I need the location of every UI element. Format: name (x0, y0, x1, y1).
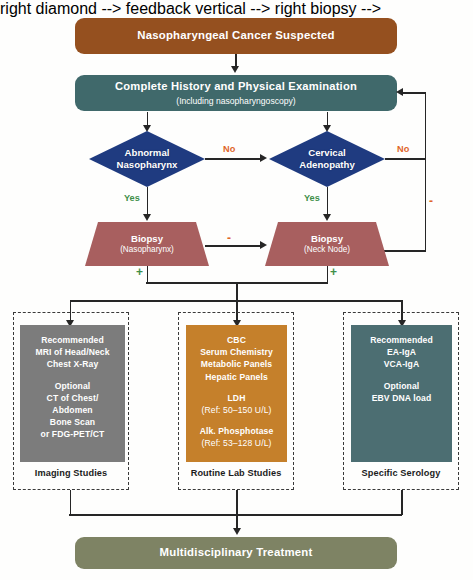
process-biopsy-nasopharynx[interactable]: Biopsy (Nasopharynx) (85, 222, 209, 266)
panel-line: Abdomen (52, 404, 92, 416)
panel-line: Optional (55, 380, 91, 392)
process-sublabel: (Neck Node) (304, 245, 350, 255)
decision-label-line1: Abnormal (125, 147, 170, 159)
connector-feedback-vertical (425, 93, 427, 251)
panel-line: MRI of Head/Neck (35, 346, 109, 358)
connector-minus-left-to-right-biopsy (205, 245, 261, 247)
arrowhead-down-to-treatment (233, 528, 241, 535)
process-label: Biopsy (131, 233, 163, 245)
edge-label-yes-right: Yes (304, 193, 320, 203)
flowchart-canvas: Nasopharyngeal Cancer Suspected Complete… (0, 0, 473, 580)
panel-line: EBV DNA load (372, 392, 432, 404)
panel-line: VCA-IgA (384, 358, 420, 370)
decision-cervical-adenopathy[interactable]: Cervical Adenopathy (269, 131, 385, 187)
panel-line: Metabolic Panels (201, 358, 272, 370)
connector-no-left-to-right-diamond (205, 158, 261, 160)
decision-label-line2: Adenopathy (299, 159, 354, 171)
panel-imaging-studies[interactable]: RecommendedMRI of Head/NeckChest X-RayOp… (20, 325, 125, 462)
connector-yes-right-diamond-to-biopsy (327, 187, 329, 215)
node-label: Complete History and Physical Examinatio… (115, 80, 357, 93)
connector-imaging-group-down (70, 490, 72, 515)
arrowhead-down-to-history (231, 66, 239, 73)
process-biopsy-neck-node[interactable]: Biopsy (Neck Node) (265, 222, 389, 266)
panel-specific-serology[interactable]: RecommendedEA-IgAVCA-IgAOptionalEBV DNA … (351, 325, 452, 462)
arrowhead-down-to-biopsy-nasopharynx (143, 214, 151, 221)
connector-plus-right-stub (327, 266, 329, 283)
arrowhead-left-into-history (396, 88, 403, 96)
panel-line: LDH (228, 392, 246, 404)
panel-routine-lab-studies[interactable]: CBCSerum ChemistryMetabolic PanelsHepati… (186, 325, 287, 462)
panel-line: Recommended (41, 334, 104, 346)
panel-line: Optional (384, 380, 420, 392)
connector-feedback-to-history (403, 92, 426, 94)
connector-serology-group-down (401, 490, 403, 515)
process-label: Biopsy (311, 233, 343, 245)
connector-adenopathy-no-to-feedback (385, 158, 426, 160)
process-sublabel: (Nasopharynx) (120, 245, 174, 255)
connector-merge-to-distribution (236, 282, 238, 301)
edge-label-plus-right: + (330, 265, 337, 279)
group-label-routine-lab-studies: Routine Lab Studies (178, 468, 294, 478)
decision-abnormal-nasopharynx[interactable]: Abnormal Nasopharynx (89, 131, 205, 187)
edge-label-minus-between-biopsies: - (227, 231, 231, 245)
decision-label-line2: Nasopharynx (117, 159, 178, 171)
panel-line: Alk. Phosphotase (200, 425, 274, 437)
panel-line: (Ref: 50–150 U/L) (201, 404, 271, 416)
panel-line: Serum Chemistry (200, 346, 273, 358)
node-label: Multidisciplinary Treatment (160, 546, 313, 559)
group-label-imaging-studies: Imaging Studies (13, 468, 129, 478)
edge-label-no-between-diamonds: No (223, 144, 235, 154)
edge-label-minus-feedback: - (429, 194, 433, 208)
arrowhead-down-to-biopsy-necknode (323, 214, 331, 221)
panel-line: Chest X-Ray (47, 358, 99, 370)
panel-line: Hepatic Panels (205, 371, 268, 383)
node-nasopharyngeal-cancer-suspected[interactable]: Nasopharyngeal Cancer Suspected (75, 18, 397, 54)
connector-yes-left-diamond-to-biopsy (147, 187, 149, 215)
group-label-specific-serology: Specific Serology (343, 468, 459, 478)
edge-label-yes-left: Yes (124, 193, 140, 203)
panel-line: CT of Chest/ (47, 392, 99, 404)
arrowhead-right-to-adenopathy (260, 154, 267, 162)
connector-lab-group-down (236, 490, 238, 515)
node-sublabel: (Including nasopharyngoscopy) (176, 96, 295, 106)
edge-label-no-right-of-adenopathy: No (397, 144, 409, 154)
panel-line: Recommended (370, 334, 433, 346)
connector-plus-left-stub (147, 266, 149, 283)
edge-label-plus-left: + (136, 265, 143, 279)
arrowhead-right-to-biopsy-necknode (260, 241, 267, 249)
panel-line: Bone Scan (50, 416, 95, 428)
node-multidisciplinary-treatment[interactable]: Multidisciplinary Treatment (75, 537, 397, 569)
node-label: Nasopharyngeal Cancer Suspected (137, 29, 334, 42)
panel-line: EA-IgA (387, 346, 416, 358)
decision-label-line1: Cervical (308, 147, 345, 159)
node-complete-history-physical-exam[interactable]: Complete History and Physical Examinatio… (75, 75, 397, 111)
panel-line: CBC (227, 334, 246, 346)
panel-line: or FDG-PET/CT (41, 428, 105, 440)
panel-line: (Ref: 53–128 U/L) (201, 437, 271, 449)
